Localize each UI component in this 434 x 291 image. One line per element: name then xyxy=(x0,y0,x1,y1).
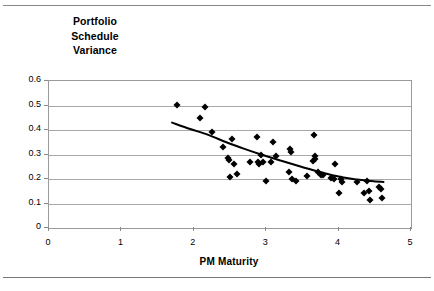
scatter-points xyxy=(49,81,411,228)
data-point xyxy=(335,189,342,196)
y-tick-label-1: 0.5 xyxy=(7,100,41,109)
x-tick-mark-4 xyxy=(338,227,339,231)
data-point xyxy=(310,131,317,138)
x-tick-mark-3 xyxy=(265,227,266,231)
y-tick-mark-1 xyxy=(44,105,48,106)
chart-title-line-3: Variance xyxy=(30,43,160,58)
data-point xyxy=(269,139,276,146)
data-point xyxy=(263,177,270,184)
data-point xyxy=(219,144,226,151)
y-tick-label-5: 0.1 xyxy=(7,198,41,207)
y-tick-label-0: 0.6 xyxy=(7,75,41,84)
y-tick-label-6: 0 xyxy=(7,222,41,231)
data-point xyxy=(304,172,311,179)
scatter-chart: PortfolioScheduleVariance 0.60.50.40.30.… xyxy=(0,0,434,291)
chart-title-line-2: Schedule xyxy=(30,29,160,44)
data-point xyxy=(247,158,254,165)
data-point xyxy=(253,133,260,140)
data-point xyxy=(378,194,385,201)
data-point xyxy=(196,115,203,122)
data-point xyxy=(258,152,265,159)
x-tick-label-4: 4 xyxy=(323,238,353,247)
x-tick-label-3: 3 xyxy=(250,238,280,247)
y-tick-label-4: 0.2 xyxy=(7,173,41,182)
x-tick-mark-5 xyxy=(410,227,411,231)
data-point xyxy=(202,104,209,111)
data-point xyxy=(367,197,374,204)
y-tick-mark-4 xyxy=(44,178,48,179)
data-point xyxy=(339,178,346,185)
chart-title-line-1: Portfolio xyxy=(30,14,160,29)
x-tick-mark-0 xyxy=(48,227,49,231)
data-point xyxy=(267,158,274,165)
y-tick-mark-5 xyxy=(44,203,48,204)
data-point xyxy=(208,129,215,136)
data-point xyxy=(233,170,240,177)
x-tick-mark-2 xyxy=(193,227,194,231)
y-tick-mark-3 xyxy=(44,154,48,155)
data-point xyxy=(229,136,236,143)
x-axis-title: PM Maturity xyxy=(48,256,410,267)
data-point xyxy=(273,153,280,160)
data-point xyxy=(174,101,181,108)
x-tick-label-2: 2 xyxy=(178,238,208,247)
chart-title: PortfolioScheduleVariance xyxy=(30,14,160,58)
data-point xyxy=(354,179,361,186)
x-tick-label-1: 1 xyxy=(105,238,135,247)
plot-area xyxy=(48,80,412,229)
data-point xyxy=(363,177,370,184)
y-tick-mark-0 xyxy=(44,80,48,81)
y-tick-label-2: 0.4 xyxy=(7,124,41,133)
y-tick-label-3: 0.3 xyxy=(7,149,41,158)
x-tick-label-5: 5 xyxy=(395,238,425,247)
data-point xyxy=(292,177,299,184)
data-point xyxy=(226,173,233,180)
data-point xyxy=(331,160,338,167)
x-tick-label-0: 0 xyxy=(33,238,63,247)
y-tick-mark-2 xyxy=(44,129,48,130)
x-tick-mark-1 xyxy=(120,227,121,231)
